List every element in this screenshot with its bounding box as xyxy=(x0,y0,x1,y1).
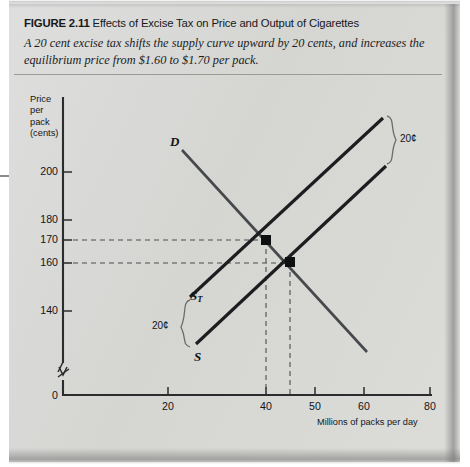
y-tick-label-170: 170 xyxy=(14,233,58,245)
supply-with-tax-curve-label: ST xyxy=(190,288,202,304)
tax-wedge-top-brace xyxy=(387,116,396,164)
y-tick-label-160: 160 xyxy=(14,256,58,268)
equilibrium-after-tax-marker xyxy=(261,235,271,245)
y-axis-origin-label: 0 xyxy=(14,389,58,401)
supply-with-tax-curve-line xyxy=(190,118,383,297)
supply-curve-label: S xyxy=(194,349,201,365)
x-axis-line xyxy=(63,380,432,395)
tax-wedge-top-label: 20¢ xyxy=(400,133,417,144)
x-tick-label-80: 80 xyxy=(410,400,450,412)
x-axis-ticks xyxy=(168,387,430,395)
y-tick-label-200: 200 xyxy=(14,165,58,177)
tax-wedge-bottom-brace xyxy=(181,300,190,347)
axis-break-arrow xyxy=(59,367,67,375)
y-tick-label-140: 140 xyxy=(14,304,58,316)
guide-lines xyxy=(64,240,290,394)
y-axis-ticks xyxy=(63,172,72,311)
demand-curve-line xyxy=(182,150,367,352)
chart-svg xyxy=(0,0,470,467)
supply-curve-line xyxy=(196,166,386,344)
y-tick-label-180: 180 xyxy=(14,213,58,225)
x-tick-label-60: 60 xyxy=(344,400,384,412)
y-axis-title: Priceperpack(cents) xyxy=(30,94,58,140)
tax-wedge-bottom-label: 20¢ xyxy=(152,320,169,331)
chart-plot-area: Priceperpack(cents) 200 180 170 160 140 … xyxy=(0,0,470,467)
x-tick-label-40: 40 xyxy=(246,400,286,412)
equilibrium-before-tax-marker xyxy=(285,257,295,267)
x-tick-label-20: 20 xyxy=(148,400,188,412)
supply-with-tax-subscript: T xyxy=(197,294,202,304)
demand-curve-label: D xyxy=(170,134,179,150)
figure-root: FIGURE 2.11 Effects of Excise Tax on Pri… xyxy=(0,0,470,467)
x-tick-label-50: 50 xyxy=(295,400,335,412)
x-axis-title: Millions of packs per day xyxy=(317,417,418,427)
